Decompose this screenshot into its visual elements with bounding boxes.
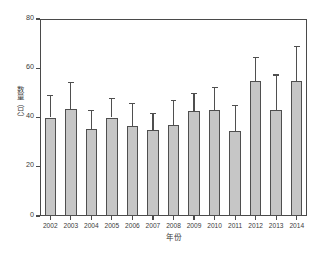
error-bar-stem-2013: [276, 74, 277, 110]
x-tick-label: 2007: [146, 222, 161, 229]
x-tick-label: 2003: [63, 222, 78, 229]
bar-2004: [86, 129, 98, 216]
bar-2013: [270, 110, 282, 216]
bar-2005: [106, 118, 118, 217]
error-bar-stem-2002: [50, 95, 51, 117]
x-tick-mark: [111, 216, 112, 220]
error-bar-cap-2008: [171, 100, 177, 101]
x-tick-label: 2012: [248, 222, 263, 229]
error-bar-cap-2011: [232, 105, 238, 106]
x-tick-label: 2009: [187, 222, 202, 229]
bar-2011: [229, 131, 241, 216]
x-axis-title: 年份: [40, 233, 307, 242]
error-bar-cap-2007: [150, 113, 156, 114]
x-tick-mark: [255, 216, 256, 220]
y-tick-label: 40: [26, 112, 34, 119]
x-tick-label: 2013: [269, 222, 284, 229]
error-bar-stem-2012: [255, 57, 256, 80]
x-tick-label: 2008: [166, 222, 181, 229]
x-tick-mark: [235, 216, 236, 220]
bar-2008: [168, 125, 180, 216]
error-bar-stem-2007: [152, 113, 153, 130]
error-bar-cap-2012: [253, 57, 259, 58]
y-tick-label: 60: [26, 63, 34, 70]
y-tick-mark: [36, 166, 40, 167]
bar-2002: [45, 118, 57, 217]
x-tick-label: 2005: [105, 222, 120, 229]
bar-2009: [188, 111, 200, 216]
error-bar-cap-2005: [109, 98, 115, 99]
error-bar-stem-2005: [111, 98, 112, 118]
y-axis-title: 数量（只）: [9, 85, 23, 120]
bar-2010: [209, 110, 221, 216]
error-bar-cap-2003: [68, 82, 74, 83]
error-bar-cap-2006: [129, 103, 135, 104]
x-tick-mark: [173, 216, 174, 220]
y-tick-label: 80: [26, 14, 34, 21]
error-bar-stem-2003: [70, 82, 71, 109]
x-tick-mark: [193, 216, 194, 220]
x-tick-label: 2002: [43, 222, 58, 229]
y-tick-label: 20: [26, 161, 34, 168]
error-bar-cap-2013: [273, 74, 279, 75]
x-tick-mark: [132, 216, 133, 220]
bar-2006: [127, 126, 139, 216]
y-tick-label: 0: [30, 211, 34, 218]
x-tick-mark: [152, 216, 153, 220]
error-bar-stem-2010: [214, 87, 215, 110]
error-bar-stem-2011: [235, 105, 236, 131]
error-bar-cap-2002: [47, 95, 53, 96]
error-bar-stem-2009: [193, 93, 194, 111]
x-tick-mark: [70, 216, 71, 220]
x-tick-label: 2004: [84, 222, 99, 229]
bar-2007: [147, 130, 159, 216]
x-tick-mark: [50, 216, 51, 220]
y-tick-mark: [36, 68, 40, 69]
x-tick-label: 2011: [228, 222, 242, 229]
y-axis: 020406080: [0, 0, 40, 256]
error-bar-stem-2004: [91, 110, 92, 128]
y-tick-mark: [36, 117, 40, 118]
bar-2003: [65, 109, 77, 216]
error-bar-cap-2004: [88, 110, 94, 111]
x-tick-label: 2006: [125, 222, 140, 229]
x-tick-mark: [91, 216, 92, 220]
bar-2012: [250, 81, 262, 216]
bar-2014: [291, 81, 303, 216]
bar-chart-figure: 020406080 数量（只） 200220032004200520062007…: [0, 0, 326, 256]
x-tick-mark: [214, 216, 215, 220]
error-bar-stem-2006: [132, 103, 133, 126]
x-tick-label: 2014: [289, 222, 304, 229]
error-bar-stem-2014: [296, 46, 297, 80]
x-tick-mark: [296, 216, 297, 220]
y-tick-mark: [36, 18, 40, 19]
error-bar-stem-2008: [173, 100, 174, 125]
error-bar-cap-2009: [191, 93, 197, 94]
error-bar-cap-2014: [294, 46, 300, 47]
x-tick-mark: [276, 216, 277, 220]
error-bar-cap-2010: [212, 87, 218, 88]
bars-layer: [40, 19, 307, 216]
x-tick-label: 2010: [207, 222, 222, 229]
